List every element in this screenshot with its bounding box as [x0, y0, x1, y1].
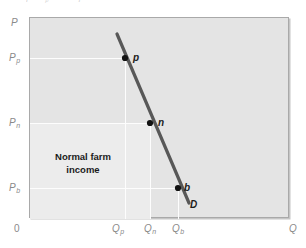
x-tick-qb: Qb [172, 223, 184, 235]
point-p-dot [122, 55, 128, 61]
y-tick-pp: Pp [9, 52, 20, 64]
demand-curve-label: D [190, 199, 197, 210]
point-b-dot [175, 185, 181, 191]
x-tick-qp-sub: p [120, 228, 124, 235]
x-tick-qn-base: Q [144, 223, 152, 234]
origin-label: 0 [14, 223, 20, 234]
point-label-p: p [133, 52, 139, 63]
demand-curve-line [117, 34, 189, 203]
y-tick-pp-sub: p [16, 57, 20, 64]
y-tick-pn-base: P [9, 117, 16, 128]
x-tick-qp: Qp [112, 223, 124, 235]
normal-farm-income-line1: Normal farm [38, 150, 128, 163]
y-tick-pn: Pn [9, 117, 20, 129]
y-tick-pp-base: P [9, 52, 16, 63]
normal-farm-income-line2: income [38, 163, 128, 176]
y-tick-pb-sub: b [16, 187, 20, 194]
x-tick-qp-base: Q [112, 223, 120, 234]
y-tick-pn-sub: n [16, 122, 20, 129]
y-axis-title: P [11, 17, 18, 28]
point-label-n: n [158, 117, 164, 128]
x-tick-qn: Qn [144, 223, 156, 235]
y-tick-pb-base: P [9, 182, 16, 193]
point-n-dot [147, 120, 153, 126]
y-tick-pb: Pb [9, 182, 20, 194]
normal-farm-income-label: Normal farm income [38, 150, 128, 176]
x-tick-qn-sub: n [152, 228, 156, 235]
demand-curve-figure: Pₚ Pᵇ P Pp Pn Pb 0 Qp Qn Qb Q [0, 0, 306, 248]
x-tick-qb-base: Q [172, 223, 180, 234]
x-axis-title: Q [289, 223, 297, 234]
point-label-b: b [184, 182, 190, 193]
x-tick-qb-sub: b [180, 228, 184, 235]
clipped-text-remnant: Pₚ Pᵇ [26, 0, 106, 3]
